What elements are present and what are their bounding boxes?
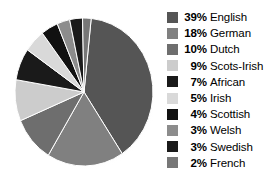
legend-item-label: African bbox=[210, 76, 245, 88]
legend-item[interactable]: 39%English bbox=[167, 9, 266, 25]
legend-item[interactable]: 10%Dutch bbox=[167, 41, 266, 57]
legend-item-percent: 3% bbox=[183, 124, 207, 136]
legend-item-percent: 2% bbox=[183, 157, 207, 169]
legend-item-percent: 3% bbox=[183, 141, 207, 153]
legend-item[interactable]: 3%Swedish bbox=[167, 139, 266, 155]
legend-color-swatch bbox=[167, 44, 178, 55]
legend-item-label: Swedish bbox=[210, 141, 253, 153]
legend-item-percent: 4% bbox=[183, 108, 207, 120]
legend-item[interactable]: 2%French bbox=[167, 155, 266, 171]
legend-item-label: Irish bbox=[210, 92, 231, 104]
legend-item-percent: 7% bbox=[183, 76, 207, 88]
legend-item-text: 18%German bbox=[183, 27, 251, 39]
pie-slice-group bbox=[15, 18, 153, 166]
legend-item-label: German bbox=[210, 27, 251, 39]
legend-item-percent: 10% bbox=[183, 43, 207, 55]
legend-item[interactable]: 18%German bbox=[167, 25, 266, 41]
pie-chart bbox=[0, 0, 165, 183]
legend-item[interactable]: 4%Scottish bbox=[167, 106, 266, 122]
legend-item-text: 9%Scots-Irish bbox=[183, 60, 263, 72]
chart-legend: 39%English18%German10%Dutch9%Scots-Irish… bbox=[167, 9, 266, 171]
legend-item[interactable]: 7%African bbox=[167, 74, 266, 90]
legend-color-swatch bbox=[167, 76, 178, 87]
pie-chart-svg bbox=[0, 0, 165, 183]
legend-item-label: French bbox=[210, 157, 245, 169]
legend-item-percent: 5% bbox=[183, 92, 207, 104]
legend-item[interactable]: 9%Scots-Irish bbox=[167, 58, 266, 74]
legend-color-swatch bbox=[167, 125, 178, 136]
legend-item-text: 3%Welsh bbox=[183, 124, 241, 136]
legend-item-label: Dutch bbox=[210, 43, 240, 55]
legend-color-swatch bbox=[167, 109, 178, 120]
legend-color-swatch bbox=[167, 28, 178, 39]
legend-item-label: Welsh bbox=[210, 124, 241, 136]
legend-item[interactable]: 5%Irish bbox=[167, 90, 266, 106]
legend-color-swatch bbox=[167, 12, 178, 23]
legend-item-text: 39%English bbox=[183, 11, 247, 23]
legend-item-text: 5%Irish bbox=[183, 92, 231, 104]
legend-item-text: 4%Scottish bbox=[183, 108, 250, 120]
legend-color-swatch bbox=[167, 93, 178, 104]
legend-item-label: Scottish bbox=[210, 108, 250, 120]
legend-item-label: Scots-Irish bbox=[210, 60, 263, 72]
legend-color-swatch bbox=[167, 60, 178, 71]
legend-color-swatch bbox=[167, 157, 178, 168]
legend-item-label: English bbox=[210, 11, 247, 23]
legend-item-text: 3%Swedish bbox=[183, 141, 253, 153]
legend-item-percent: 9% bbox=[183, 60, 207, 72]
chart-container: 39%English18%German10%Dutch9%Scots-Irish… bbox=[0, 0, 266, 183]
legend-color-swatch bbox=[167, 141, 178, 152]
legend-item[interactable]: 3%Welsh bbox=[167, 122, 266, 138]
legend-item-percent: 18% bbox=[183, 27, 207, 39]
legend-item-percent: 39% bbox=[183, 11, 207, 23]
legend-item-text: 10%Dutch bbox=[183, 43, 240, 55]
legend-item-text: 7%African bbox=[183, 76, 245, 88]
legend-item-text: 2%French bbox=[183, 157, 245, 169]
